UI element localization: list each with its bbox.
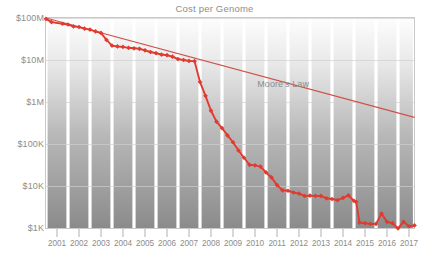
moores-law-annotation: Moore's Law [257,79,309,89]
x-axis-tick-label: 2014 [334,239,352,248]
x-axis-tick-label: 2005 [136,239,154,248]
x-axis-tick-label: 2009 [224,239,242,248]
x-axis-tick-label: 2012 [290,239,308,248]
x-axis-tick-label: 2017 [400,239,418,248]
chart-container: Cost per Genome $100M$10M$1M$100K$10K$1K… [0,0,429,261]
x-axis-tick-label: 2011 [268,239,285,248]
x-axis-tick-label: 2002 [70,239,88,248]
x-axis-tick-label: 2013 [312,239,330,248]
x-axis-tick-label: 2006 [158,239,176,248]
x-axis-tick-label: 2016 [378,239,396,248]
x-axis: 2001200220032004200520062007200820092010… [0,0,429,261]
x-axis-tick-label: 2008 [202,239,220,248]
x-axis-tick-label: 2004 [114,239,132,248]
x-axis-tick-label: 2010 [246,239,264,248]
x-axis-tick-label: 2015 [356,239,374,248]
x-axis-tick-label: 2001 [48,239,66,248]
x-axis-tick-label: 2003 [92,239,110,248]
x-axis-tick-label: 2007 [180,239,198,248]
